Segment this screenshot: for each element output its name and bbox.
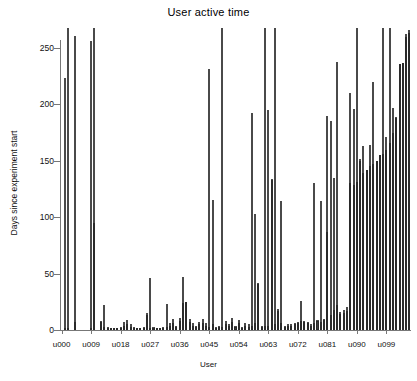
y-axis-tick xyxy=(54,104,60,105)
bar-total xyxy=(313,183,315,330)
bar-active xyxy=(379,155,381,330)
bar-active xyxy=(116,328,118,330)
bar-active xyxy=(330,315,332,330)
y-axis-tick xyxy=(54,330,60,331)
x-axis-tick xyxy=(298,330,299,334)
bar-active xyxy=(198,324,200,330)
x-axis-tick xyxy=(239,330,240,334)
x-axis-tick xyxy=(268,330,269,334)
bar-active xyxy=(169,326,171,331)
bar-active xyxy=(225,324,227,330)
bar-active xyxy=(120,328,122,330)
bar-total xyxy=(149,278,151,330)
bar-active xyxy=(267,326,269,331)
x-axis-tick xyxy=(121,330,122,334)
bar-active xyxy=(356,182,358,330)
y-axis-tick xyxy=(54,217,60,218)
bar-active xyxy=(202,323,204,330)
bar-active xyxy=(212,324,214,330)
x-axis-tick xyxy=(327,330,328,334)
bar-active xyxy=(146,315,148,330)
bar-active xyxy=(215,328,217,330)
bar-active xyxy=(130,327,132,330)
bar-active xyxy=(261,327,263,330)
bar-active xyxy=(139,328,141,330)
bar-active xyxy=(189,322,191,330)
plot-area xyxy=(60,30,411,330)
x-axis-tick xyxy=(357,330,358,334)
bar-active xyxy=(287,326,289,331)
bar-active xyxy=(382,154,384,330)
bar-active xyxy=(172,323,174,330)
bar-active xyxy=(303,322,305,330)
bar-active xyxy=(310,326,312,331)
bar-active xyxy=(316,321,318,330)
bar-active xyxy=(195,327,197,330)
bar-active xyxy=(346,311,348,330)
bar-active xyxy=(372,164,374,330)
bar-active xyxy=(162,328,164,330)
bar-active xyxy=(251,326,253,331)
bar-active xyxy=(405,37,407,330)
bar-total xyxy=(212,200,214,330)
bar-active xyxy=(74,322,76,330)
bar-active xyxy=(254,323,256,330)
bar-active xyxy=(67,328,69,330)
bar-active xyxy=(297,323,299,330)
bar-total xyxy=(280,201,282,330)
bar-active xyxy=(205,326,207,331)
bar-active xyxy=(90,328,92,330)
bar-active xyxy=(149,328,151,330)
y-axis-tick-label: 0 xyxy=(8,325,54,335)
y-axis-tick xyxy=(54,274,60,275)
bar-active xyxy=(257,284,259,330)
bar-total xyxy=(264,28,266,330)
y-axis-tick xyxy=(54,48,60,49)
bar-active xyxy=(113,328,115,330)
bar-total xyxy=(254,214,256,330)
x-axis-title: User xyxy=(0,360,417,369)
y-axis-tick-label: 250 xyxy=(8,43,54,53)
bar-total xyxy=(333,178,335,330)
bar-total xyxy=(74,36,76,330)
bar-total xyxy=(336,62,338,330)
bar-total xyxy=(267,110,269,330)
bar-active xyxy=(277,311,279,330)
bar-active xyxy=(408,33,410,330)
bar-active xyxy=(376,161,378,330)
bar-active xyxy=(110,328,112,330)
bar-active xyxy=(290,326,292,331)
bar-active xyxy=(152,328,154,330)
bar-active xyxy=(234,327,236,330)
x-axis-tick xyxy=(62,330,63,334)
bar-active xyxy=(339,314,341,330)
bar-total xyxy=(274,28,276,330)
bar-active xyxy=(107,328,109,330)
x-axis-line xyxy=(60,330,411,331)
bar-active xyxy=(123,326,125,331)
bar-active xyxy=(241,328,243,330)
bar-active xyxy=(166,327,168,330)
bar-total xyxy=(221,28,223,330)
bar-active xyxy=(208,327,210,330)
x-axis-tick xyxy=(209,330,210,334)
bar-total xyxy=(251,113,253,330)
bar-active xyxy=(300,321,302,330)
bar-active xyxy=(274,324,276,330)
bar-active xyxy=(143,328,145,330)
bar-active xyxy=(126,324,128,330)
chart-figure: User active time 050100150200250 Days si… xyxy=(0,0,417,381)
bar-active xyxy=(238,323,240,330)
bar-active xyxy=(159,328,161,330)
x-axis-tick xyxy=(180,330,181,334)
bar-active xyxy=(307,323,309,330)
bar-active xyxy=(362,173,364,330)
bar-total xyxy=(330,121,332,330)
bar-active xyxy=(133,328,135,330)
y-axis-title: Days since experiment start xyxy=(9,83,19,283)
bar-active xyxy=(385,150,387,330)
bar-active xyxy=(175,327,177,330)
bar-total xyxy=(208,69,210,330)
bar-total xyxy=(64,78,66,330)
bar-active xyxy=(280,323,282,330)
